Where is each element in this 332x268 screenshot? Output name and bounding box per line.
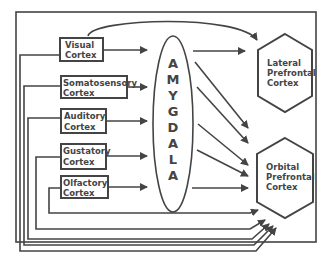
svg-text:A: A [168, 168, 178, 183]
svg-text:A: A [168, 56, 178, 71]
orbital-prefrontal-cortex: Orbital Prefrontal Cortex [257, 138, 315, 218]
amygdala-to-orbital-arrow-3 [198, 124, 248, 165]
svg-text:Cortex: Cortex [267, 78, 299, 88]
svg-text:L: L [169, 152, 177, 167]
svg-text:Cortex: Cortex [266, 182, 298, 192]
svg-text:Cortex: Cortex [63, 188, 95, 198]
svg-text:A: A [168, 136, 178, 151]
svg-text:Cortex: Cortex [65, 50, 97, 60]
svg-text:Lateral: Lateral [267, 58, 301, 68]
svg-text:Orbital: Orbital [266, 162, 299, 172]
svg-text:Gustatory: Gustatory [63, 146, 111, 156]
input-visual-cortex: Visual Cortex [60, 38, 103, 61]
input-gustatory-cortex: Gustatory Cortex [61, 144, 111, 169]
lateral-prefrontal-cortex: Lateral Prefrontal Cortex [258, 34, 316, 112]
svg-text:Visual: Visual [65, 40, 94, 50]
svg-text:Cortex: Cortex [63, 88, 95, 98]
svg-text:Auditory: Auditory [64, 111, 106, 121]
svg-text:Cortex: Cortex [63, 157, 95, 167]
svg-text:M: M [167, 72, 180, 87]
amygdala-diagram: Visual Cortex Somatosensory Cortex Audit… [0, 0, 332, 268]
svg-text:Y: Y [167, 88, 178, 103]
svg-text:Olfactory: Olfactory [63, 178, 108, 188]
svg-text:D: D [168, 120, 179, 135]
feedback-line-visual [20, 55, 276, 251]
svg-text:Somatosensory: Somatosensory [63, 78, 137, 88]
svg-text:G: G [168, 104, 179, 119]
amygdala-to-orbital-arrow-1 [195, 62, 248, 128]
amygdala-to-orbital-arrow-4 [197, 150, 248, 176]
svg-text:Cortex: Cortex [64, 122, 96, 132]
amygdala: A M Y G D A L A [153, 36, 193, 212]
input-somatosensory-cortex: Somatosensory Cortex [61, 76, 137, 98]
input-olfactory-cortex: Olfactory Cortex [61, 176, 108, 198]
svg-text:Prefrontal: Prefrontal [267, 68, 316, 78]
svg-text:Prefrontal: Prefrontal [266, 172, 315, 182]
input-auditory-cortex: Auditory Cortex [61, 109, 106, 133]
